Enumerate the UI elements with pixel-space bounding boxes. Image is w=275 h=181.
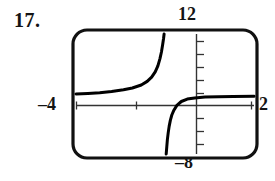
calculator-screen <box>0 0 275 181</box>
exercise-figure: 17. 12 –4 2 –8 <box>0 0 275 181</box>
